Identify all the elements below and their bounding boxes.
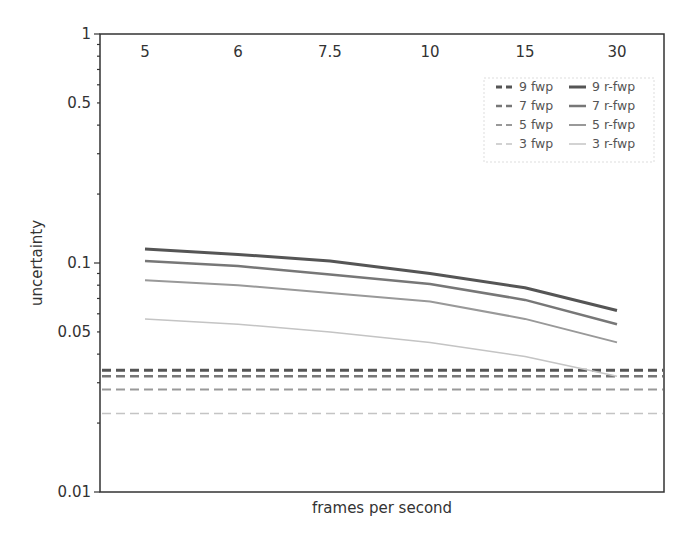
legend-entry: 5 r-fwp: [592, 117, 635, 132]
series-line-5-r-fwp: [145, 280, 617, 342]
x-tick-label: 5: [140, 43, 150, 61]
legend-entry: 7 fwp: [519, 98, 553, 113]
legend-entry: 3 fwp: [519, 136, 553, 151]
y-tick-label: 1: [81, 25, 91, 43]
legend-entry: 9 r-fwp: [592, 79, 635, 94]
x-axis: 567.5101530: [140, 43, 626, 61]
x-tick-label: 7.5: [318, 43, 342, 61]
legend-entry: 9 fwp: [519, 79, 553, 94]
x-tick-label: 10: [420, 43, 439, 61]
x-tick-label: 6: [233, 43, 243, 61]
line-chart: 10.50.10.050.01 567.5101530 frames per s…: [0, 0, 694, 535]
y-axis-label: uncertainty: [28, 220, 46, 306]
plot-lines: [102, 249, 663, 413]
x-tick-label: 30: [607, 43, 626, 61]
y-tick-label: 0.5: [67, 94, 91, 112]
x-tick-label: 15: [515, 43, 534, 61]
y-axis: 10.50.10.050.01: [58, 25, 100, 501]
legend-entry: 7 r-fwp: [592, 98, 635, 113]
legend-entry: 5 fwp: [519, 117, 553, 132]
x-axis-label: frames per second: [312, 499, 452, 517]
y-tick-label: 0.01: [58, 483, 91, 501]
legend: 9 fwp7 fwp5 fwp3 fwp9 r-fwp7 r-fwp5 r-fw…: [484, 78, 654, 162]
y-tick-label: 0.05: [58, 323, 91, 341]
y-tick-label: 0.1: [67, 254, 91, 272]
series-line-3-r-fwp: [145, 319, 617, 376]
legend-entry: 3 r-fwp: [592, 136, 635, 151]
